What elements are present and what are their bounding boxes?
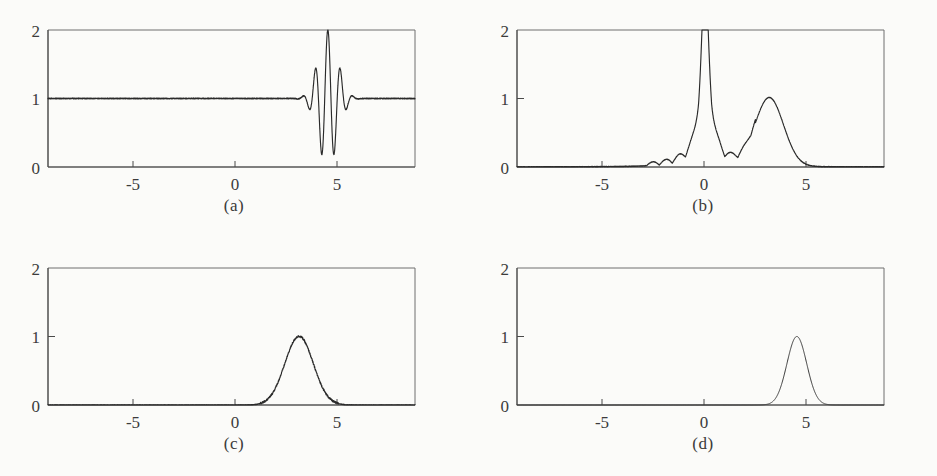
panel-b-caption: (b)	[469, 196, 937, 216]
panel-b-axes	[517, 30, 884, 167]
xtick-5: 5	[802, 175, 811, 194]
ytick-0: 0	[32, 159, 41, 178]
ytick-0: 0	[32, 397, 41, 416]
panel-a-caption: (a)	[0, 196, 468, 216]
panel-b: 2 1 0 -5 0 5 (b)	[469, 0, 937, 238]
xtick-5: 5	[333, 413, 342, 432]
panel-a-curve-group	[48, 30, 415, 155]
xtick-minus5: -5	[595, 175, 609, 194]
panel-a-ytick-labels: 2 1 0	[32, 22, 41, 178]
xtick-minus5: -5	[126, 413, 140, 432]
panel-b-curve-group	[517, 30, 884, 167]
panel-a-xtick-labels: -5 0 5	[126, 175, 341, 194]
ytick-2: 2	[32, 22, 41, 41]
panel-b-xtick-labels: -5 0 5	[595, 175, 810, 194]
xtick-0: 0	[231, 413, 240, 432]
ytick-0: 0	[501, 397, 510, 416]
xtick-minus5: -5	[126, 175, 140, 194]
panel-b-ytick-labels: 2 1 0	[501, 22, 510, 178]
panel-d-xtick-labels: -5 0 5	[595, 413, 810, 432]
xtick-0: 0	[700, 175, 709, 194]
xtick-minus5: -5	[595, 413, 609, 432]
ytick-0: 0	[501, 159, 510, 178]
xtick-0: 0	[700, 413, 709, 432]
panel-c-xtick-labels: -5 0 5	[126, 413, 341, 432]
panel-d-caption: (d)	[469, 434, 937, 454]
panel-d-ytick-labels: 2 1 0	[501, 260, 510, 416]
xtick-5: 5	[333, 175, 342, 194]
panel-d-axes	[517, 268, 884, 405]
ytick-2: 2	[501, 22, 510, 41]
panel-c-caption: (c)	[0, 434, 468, 454]
panel-c: 2 1 0 -5 0 5 (c)	[0, 238, 468, 476]
panel-d: 2 1 0 -5 0 5 (d)	[469, 238, 937, 476]
ytick-1: 1	[32, 328, 41, 347]
ytick-1: 1	[501, 90, 510, 109]
panel-a: 2 1 0 -5 0 5 (a)	[0, 0, 468, 238]
panel-c-ytick-labels: 2 1 0	[32, 260, 41, 416]
xtick-0: 0	[231, 175, 240, 194]
figure-container: 2 1 0 -5 0 5 (a)	[0, 0, 937, 476]
ytick-1: 1	[501, 328, 510, 347]
xtick-5: 5	[802, 413, 811, 432]
ytick-2: 2	[501, 260, 510, 279]
ytick-1: 1	[32, 90, 41, 109]
ytick-2: 2	[32, 260, 41, 279]
panel-d-curve-group	[517, 337, 884, 405]
panel-c-axes	[48, 268, 415, 405]
panel-c-curve-group	[48, 336, 415, 405]
